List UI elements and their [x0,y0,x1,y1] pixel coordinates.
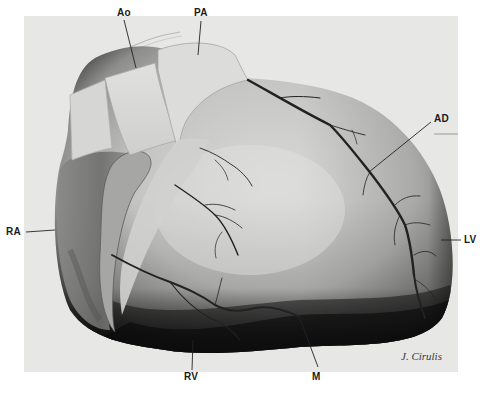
artist-signature: J. Cirulis [401,350,442,362]
label-m: M [312,372,321,382]
label-lv: LV [464,235,476,245]
label-ao: Ao [117,8,131,18]
label-rv: RV [184,372,198,382]
heart-illustration [0,0,488,393]
label-ra: RA [6,227,21,237]
label-pa: PA [194,8,208,18]
heart-illustration-figure: Ao PA AD RA LV RV M J. Cirulis [0,0,488,393]
label-ad: AD [434,114,449,124]
